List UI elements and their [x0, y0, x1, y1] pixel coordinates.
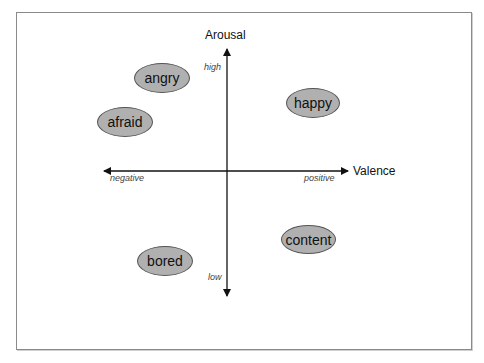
valence-positive-label: positive	[304, 173, 335, 183]
arousal-low-label: low	[208, 272, 222, 282]
emotion-bored: bored	[137, 246, 193, 276]
valence-negative-label: negative	[110, 173, 144, 183]
emotion-afraid: afraid	[97, 107, 153, 137]
emotion-angry: angry	[134, 63, 190, 93]
axes	[0, 0, 484, 363]
arousal-high-label: high	[204, 62, 221, 72]
valence-axis-title: Valence	[353, 164, 395, 178]
emotion-content: content	[281, 225, 336, 254]
arousal-axis-title: Arousal	[205, 28, 246, 42]
emotion-happy: happy	[286, 88, 340, 118]
